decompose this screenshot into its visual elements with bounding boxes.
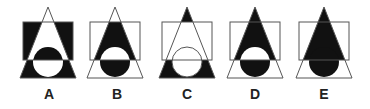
option-c[interactable]: C [152, 0, 222, 109]
option-label: D [220, 86, 290, 102]
option-e[interactable]: E [289, 0, 359, 109]
option-d[interactable]: D [220, 0, 290, 109]
option-a[interactable]: A [14, 0, 84, 109]
figure-d-icon [220, 0, 290, 86]
figure-a-icon [14, 0, 84, 86]
option-label: E [289, 86, 359, 102]
option-label: C [152, 86, 222, 102]
figure-b-icon [82, 0, 152, 86]
figure-c-icon [152, 0, 222, 86]
figure-e-icon [289, 0, 359, 86]
option-b[interactable]: B [82, 0, 152, 109]
option-label: A [14, 86, 84, 102]
option-label: B [82, 86, 152, 102]
